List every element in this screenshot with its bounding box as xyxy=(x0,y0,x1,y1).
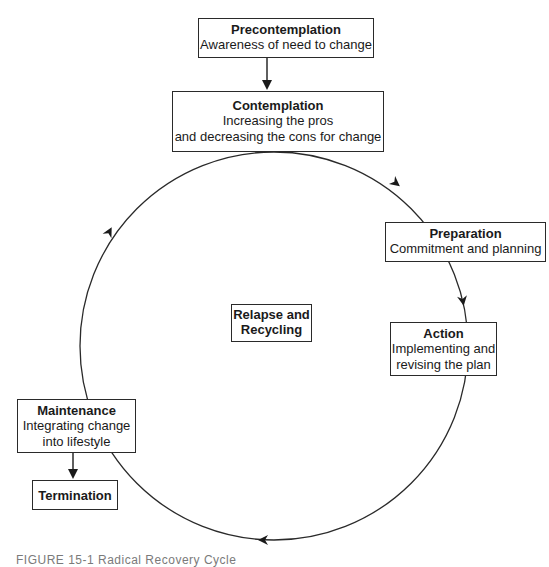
center-label-line1: Relapse and xyxy=(232,307,311,322)
cycle-arrowhead-icon xyxy=(389,176,403,190)
stage-title: Maintenance xyxy=(18,403,135,418)
stage-description: and decreasing the cons for change xyxy=(173,129,383,144)
stage-termination: Termination xyxy=(32,480,118,510)
stage-precontemplation: Precontemplation Awareness of need to ch… xyxy=(198,18,374,58)
arrowhead-down-icon xyxy=(262,80,272,90)
cycle-arrowhead-icon xyxy=(457,295,469,307)
stage-title: Termination xyxy=(33,488,117,503)
stage-title: Contemplation xyxy=(173,98,383,113)
stage-description: Integrating change xyxy=(18,418,135,433)
stage-preparation: Preparation Commitment and planning xyxy=(385,222,546,262)
stage-title: Action xyxy=(391,326,496,341)
stage-description: into lifestyle xyxy=(18,434,135,449)
stage-title: Preparation xyxy=(386,226,545,241)
stage-description: Increasing the pros xyxy=(173,113,383,128)
center-relapse-recycling: Relapse and Recycling xyxy=(231,304,312,342)
stage-description: revising the plan xyxy=(391,357,496,372)
arrowhead-down-icon xyxy=(68,469,78,479)
stage-action: Action Implementing and revising the pla… xyxy=(390,322,497,376)
figure-caption: FIGURE 15-1 Radical Recovery Cycle xyxy=(16,553,236,567)
stage-maintenance: Maintenance Integrating change into life… xyxy=(17,399,136,453)
stage-contemplation: Contemplation Increasing the pros and de… xyxy=(172,91,384,152)
center-label-line2: Recycling xyxy=(232,322,311,337)
stage-description: Commitment and planning xyxy=(386,241,545,256)
stage-title: Precontemplation xyxy=(199,22,373,37)
stage-description: Implementing and xyxy=(391,341,496,356)
stage-description: Awareness of need to change xyxy=(199,37,373,52)
